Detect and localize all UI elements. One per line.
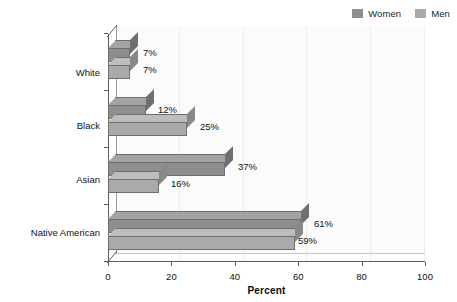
x-axis-line — [108, 261, 425, 262]
x-tick-label-40: 40 — [230, 271, 241, 282]
bar-label-native-american-women: 61% — [314, 218, 333, 229]
bar-label-white-men: 7% — [143, 64, 157, 75]
bar-face-top — [108, 154, 233, 162]
x-tick-20 — [171, 262, 172, 266]
x-tick-100 — [425, 262, 426, 266]
x-tick-label-0: 0 — [105, 271, 110, 282]
x-tick-60 — [298, 262, 299, 266]
bar-label-asian-men: 16% — [171, 178, 190, 189]
bar-label-native-american-men: 59% — [298, 235, 317, 246]
y-category-label-asian: Asian — [0, 174, 100, 185]
x-tick-40 — [235, 262, 236, 266]
y-tick-3 — [104, 204, 108, 205]
x-axis-title: Percent — [108, 285, 425, 296]
bar-face-top — [108, 171, 167, 179]
bar-asian-men[interactable] — [108, 179, 159, 193]
gridline-80 — [370, 26, 371, 262]
legend-swatch-men — [415, 9, 426, 18]
plot-area: 0 20 40 60 80 100 7% 7% 12 — [108, 34, 425, 262]
x-tick-label-80: 80 — [356, 271, 367, 282]
legend-entry-men[interactable]: Men — [415, 8, 450, 19]
y-tick-0 — [104, 33, 108, 34]
legend-swatch-women — [352, 9, 363, 18]
y-category-label-black: Black — [0, 120, 100, 131]
bar-face-front — [108, 65, 130, 79]
y-category-label-white: White — [0, 67, 100, 78]
x-tick-80 — [362, 262, 363, 266]
chart-legend: Women Men — [0, 8, 450, 19]
x-tick-label-20: 20 — [166, 271, 177, 282]
bar-label-asian-women: 37% — [238, 161, 257, 172]
bar-face-front — [108, 179, 159, 193]
y-tick-2 — [104, 147, 108, 148]
x-tick-label-60: 60 — [293, 271, 304, 282]
bar-white-men[interactable] — [108, 65, 130, 79]
x-tick-0 — [108, 262, 109, 266]
bar-face-front — [108, 122, 187, 136]
y-category-label-native-american: Native American — [0, 227, 100, 238]
legend-entry-women[interactable]: Women — [352, 8, 401, 19]
axis-depth-line-top — [107, 25, 119, 37]
bar-black-men[interactable] — [108, 122, 187, 136]
x-tick-label-100: 100 — [417, 271, 433, 282]
bar-face-top — [108, 228, 303, 236]
bar-face-front — [108, 236, 295, 250]
y-tick-1 — [104, 90, 108, 91]
bar-label-white-women: 7% — [143, 47, 157, 58]
chart-page: Women Men White Black Asian Native Ameri… — [0, 0, 457, 302]
bar-face-top — [108, 211, 309, 219]
bar-native-american-men[interactable] — [108, 236, 295, 250]
legend-label-women: Women — [368, 8, 401, 19]
x-axis-back-line — [116, 253, 425, 254]
gridline-100 — [424, 26, 425, 262]
gridline-60 — [306, 26, 307, 262]
bar-face-top — [108, 114, 195, 122]
legend-label-men: Men — [431, 8, 450, 19]
bar-label-black-men: 25% — [200, 121, 219, 132]
